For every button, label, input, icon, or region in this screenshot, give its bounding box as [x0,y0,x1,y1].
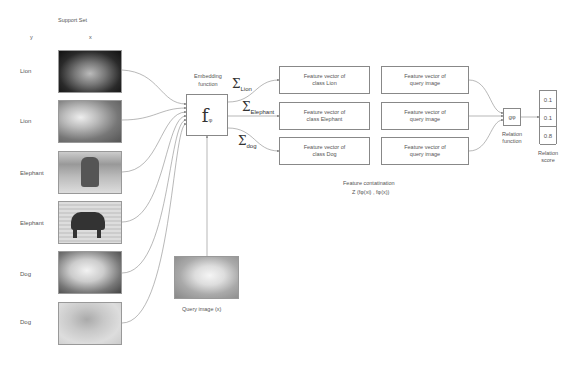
support-label: Lion [20,68,31,74]
relation-function-box: gφ [503,108,521,126]
sum-dog: Σdog [238,134,257,149]
embedding-symbol: f [202,112,209,119]
query-image-label: Query image (x) [182,306,221,312]
support-label: Elephant [20,170,44,176]
sum-lion: ΣLion [232,77,252,92]
query-vector: Feature vector ofquery image [381,102,469,130]
elephant-image [58,201,122,244]
score-elephant: 0.1 [540,109,556,127]
support-label: Lion [20,118,31,124]
support-label: Dog [20,271,31,277]
embedding-title-line2: function [180,80,236,88]
support-set-title: Support Set [58,17,87,23]
support-label: Dog [20,319,31,325]
query-vector: Feature vector ofquery image [381,137,469,165]
embedding-title: Embedding function [180,72,236,88]
relation-function-label: Relation function [495,131,529,145]
class-vector-elephant: Feature vector ofclass Elephant [279,102,370,130]
lion-image [58,100,122,143]
dog-image [58,251,122,294]
column-x-label: x [89,34,92,40]
column-y-label: y [30,34,33,40]
relation-score-column: 0.1 0.1 0.8 [539,90,557,144]
concatenation-formula: Z (fφ(xi) , fφ(x)) [352,189,389,195]
embedding-title-line1: Embedding [180,72,236,80]
embedding-function-box: f φ [186,94,228,136]
lion-image [58,50,122,93]
elephant-image [58,151,122,194]
embedding-subscript: φ [208,117,212,124]
score-dog: 0.8 [540,127,556,145]
support-label: Elephant [20,220,44,226]
relation-score-label: Relation score [531,150,565,164]
class-vector-lion: Feature vector ofclass Lion [279,66,370,94]
query-image [174,256,239,299]
class-vector-dog: Feature vector ofclass Dog [279,137,370,165]
query-vector: Feature vector ofquery image [381,66,469,94]
score-lion: 0.1 [540,91,556,109]
concatenation-label: Feature contatination [343,180,395,186]
dog-image [58,302,122,345]
sum-elephant: ΣElephant [242,100,274,115]
